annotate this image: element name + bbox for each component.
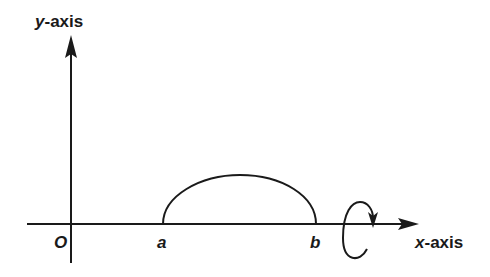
x-axis-label: x-axis	[414, 233, 463, 252]
point-b-label: b	[310, 233, 320, 252]
y-axis-label: y-axis	[34, 12, 83, 31]
y-axis-suffix: -axis	[44, 12, 83, 31]
point-a-label: a	[157, 233, 166, 252]
rotation-loop	[343, 202, 373, 258]
diagram-canvas: y-axis O a b x-axis	[0, 0, 490, 277]
curve-arch	[163, 175, 316, 224]
origin-label: O	[54, 233, 67, 252]
x-axis-suffix: -axis	[424, 233, 463, 252]
